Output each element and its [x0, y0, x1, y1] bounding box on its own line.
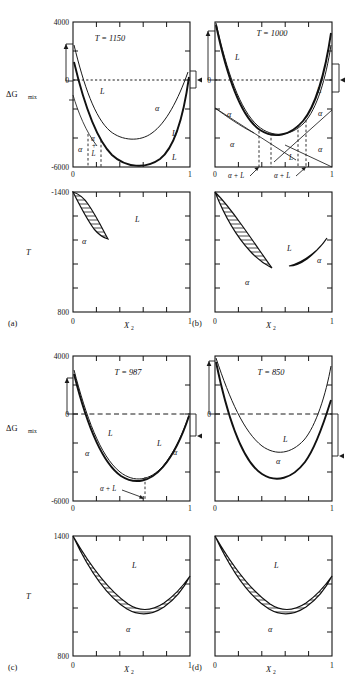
x-tick-label: 1 — [330, 170, 334, 179]
left-bracket-marker — [206, 31, 215, 80]
x-ticks-top — [96, 536, 166, 541]
svg-text:X: X — [123, 321, 130, 330]
x-tick-label: 0 — [71, 317, 75, 326]
liquid-label: L — [107, 429, 113, 438]
x-axis-title-composition: X 2 — [265, 321, 276, 331]
two-phase-label: α + L — [228, 172, 244, 180]
x-ticks-top — [96, 22, 166, 27]
svg-text:2: 2 — [131, 325, 134, 331]
svg-text:X: X — [265, 665, 272, 674]
alpha-label: α — [173, 448, 178, 457]
alpha-label: α — [78, 145, 83, 154]
right-bracket-marker — [332, 414, 344, 458]
svg-text:2: 2 — [273, 325, 276, 331]
panel-a-gibbs-plot: T = 1150 L α L L α α + L 4000 0 -6000 0 … — [6, 18, 202, 179]
panel-letter: (d) — [192, 663, 202, 672]
panel-title: T = 850 — [258, 368, 286, 377]
liquid-label: L — [282, 435, 288, 444]
y-tick-label: 800 — [58, 308, 70, 317]
y-axis-title-gibbs: ΔG mix — [6, 424, 37, 434]
lens-hatching — [286, 240, 332, 267]
x-axis-title-composition: X 2 — [123, 321, 134, 331]
x-tick-label: 1 — [330, 504, 334, 513]
curve-liquid — [74, 45, 188, 139]
panel-letter: (c) — [8, 663, 18, 672]
x-ticks-top — [238, 22, 308, 27]
alpha-label: α — [227, 110, 232, 119]
lens-hatching — [212, 540, 335, 615]
panel-letter: (a) — [8, 319, 18, 328]
y-tick-label: -6000 — [51, 497, 69, 506]
liquid-field-label: L — [286, 244, 292, 253]
right-bracket-marker — [332, 64, 345, 92]
y-tick-label: -6000 — [51, 163, 69, 172]
alpha-label: α — [318, 109, 323, 118]
y-ticks-right — [327, 385, 332, 472]
svg-text:L: L — [91, 150, 96, 158]
y-tick-label: 0 — [65, 76, 69, 85]
two-phase-lens-left — [215, 192, 272, 268]
x-ticks-bottom — [96, 307, 166, 312]
y-ticks-left — [215, 216, 220, 288]
y-ticks-left — [73, 560, 78, 632]
liquid-field-label: L — [273, 561, 279, 570]
curve-liquid — [216, 23, 331, 134]
y-tick-label: 4000 — [54, 352, 69, 361]
y-tick-label: -1400 — [51, 188, 69, 197]
panel-b: T = 1000 L L α α α α L 0 0 1 α + L α + L — [186, 0, 363, 180]
panel-c-phase: L α 1400 800 0 1 T X 2 (c) — [0, 514, 186, 689]
liquid-label: L — [288, 154, 293, 162]
x-tick-label: 0 — [213, 170, 217, 179]
y-axis-title-temperature: T — [26, 592, 32, 601]
common-tangent-right — [274, 110, 332, 162]
liquid-label: L — [156, 439, 162, 448]
svg-text:X: X — [123, 665, 130, 674]
panel-b-phase: α L α 0 1 X 2 (b) — [186, 180, 363, 340]
curve-alpha — [216, 362, 331, 479]
alpha-field-label: α — [126, 625, 131, 634]
y-tick-label: 0 — [207, 76, 211, 85]
liquid-label: L — [171, 153, 177, 162]
alpha-label: α — [230, 140, 235, 149]
alpha-label: α — [318, 145, 323, 154]
svg-text:mix: mix — [28, 94, 37, 100]
x-tick-label: 0 — [71, 661, 75, 670]
curve-liquid — [74, 370, 189, 479]
two-phase-label: α + L — [100, 485, 116, 493]
svg-text:+: + — [92, 142, 97, 150]
y-ticks-left — [215, 51, 220, 138]
x-tick-label: 1 — [330, 661, 334, 670]
annotation-leader — [122, 490, 141, 497]
liquid-label: L — [99, 87, 105, 96]
two-phase-label: α + L — [274, 172, 290, 180]
alpha-field-label: α — [317, 256, 322, 265]
panel-a-phase: L α -1400 800 0 1 T X 2 (a) — [0, 180, 186, 340]
svg-text:2: 2 — [131, 669, 134, 675]
y-ticks-left — [215, 385, 220, 472]
svg-text:mix: mix — [28, 428, 37, 434]
panel-letter: (b) — [192, 319, 202, 328]
alpha-label: α — [155, 104, 160, 113]
two-phase-lens-region — [215, 536, 332, 614]
panel-d: T = 850 L α 0 0 1 — [186, 344, 363, 514]
x-ticks-top — [238, 356, 308, 361]
lens-hatching — [70, 540, 193, 615]
liquid-label: L — [234, 53, 240, 62]
x-tick-label: 0 — [213, 661, 217, 670]
y-axis-title-temperature: T — [26, 248, 32, 257]
x-ticks-top — [238, 536, 308, 541]
left-bracket-marker — [65, 378, 73, 414]
y-tick-label: 0 — [207, 410, 211, 419]
y-ticks-left — [73, 216, 78, 288]
x-ticks-top — [96, 192, 166, 197]
x-ticks-bottom — [96, 496, 166, 501]
y-ticks-left — [215, 560, 220, 632]
panel-title: T = 1150 — [95, 34, 126, 43]
left-bracket-marker — [207, 361, 215, 414]
x-ticks-bottom — [96, 651, 166, 656]
y-axis-title-gibbs: ΔG mix — [6, 90, 37, 100]
y-ticks-left — [73, 385, 78, 472]
panel-a: T = 1150 L α L L α α + L 4000 0 -6000 0 … — [0, 0, 186, 180]
x-tick-label: 0 — [71, 504, 75, 513]
x-axis-title-composition: X 2 — [265, 665, 276, 675]
